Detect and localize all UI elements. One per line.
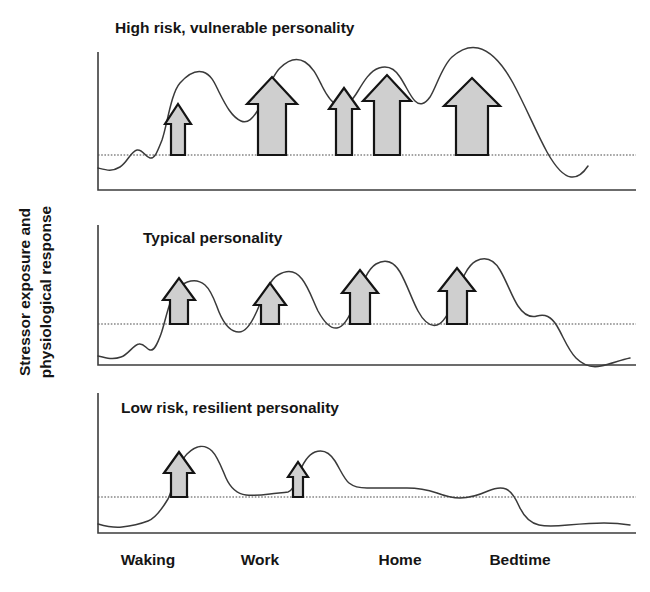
x-tick-label-bedtime: Bedtime [489, 551, 551, 568]
panel-title-typical: Typical personality [143, 229, 283, 246]
x-tick-label-work: Work [241, 551, 280, 568]
y-axis-label-line1: Stressor exposure and [16, 208, 33, 376]
stress-response-figure: Stressor exposure and physiological resp… [0, 0, 650, 592]
y-axis-label-line2: physiological response [37, 205, 54, 378]
x-tick-label-waking: Waking [121, 551, 176, 568]
figure-canvas: Stressor exposure and physiological resp… [0, 0, 650, 592]
panel-title-high-risk: High risk, vulnerable personality [115, 19, 355, 36]
x-tick-label-home: Home [378, 551, 421, 568]
panel-title-low-risk: Low risk, resilient personality [121, 399, 339, 416]
